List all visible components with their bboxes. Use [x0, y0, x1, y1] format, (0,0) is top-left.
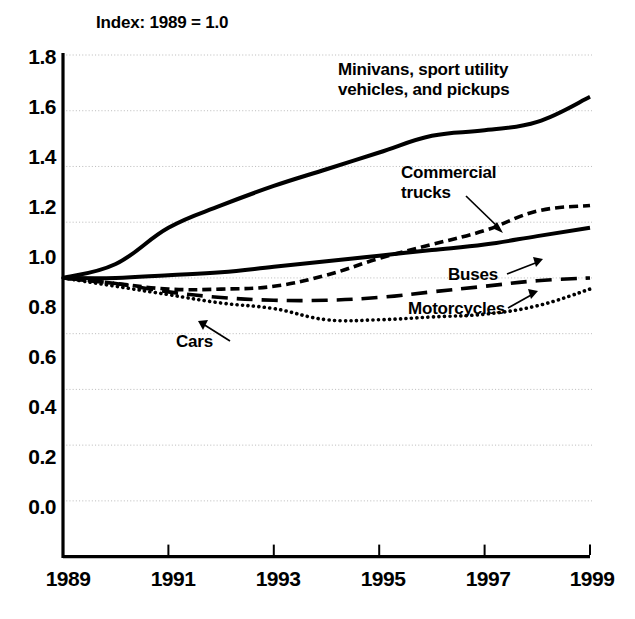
arrowhead-cars — [198, 320, 208, 330]
arrowhead-buses — [533, 257, 543, 267]
annotation-minivans: Minivans, sport utility vehicles, and pi… — [338, 60, 548, 100]
annotation-minivans-line1: Minivans, sport utility — [338, 60, 508, 79]
annotation-motorcycles-label: Motorcycles — [408, 299, 505, 318]
annotation-motorcycles: Motorcycles — [408, 299, 505, 319]
annotation-cars-label: Cars — [176, 332, 213, 351]
leader-motorcycles — [508, 294, 533, 308]
annotation-buses: Buses — [448, 265, 498, 285]
annotation-commercial-trucks-line1: Commercial — [401, 163, 496, 182]
annotation-commercial-trucks: Commercial trucks — [401, 163, 531, 203]
series-line-motorcycles — [63, 278, 590, 301]
chart-figure: Index: 1989 = 1.0 1.8 1.6 1.4 1.2 1.0 0.… — [0, 0, 635, 619]
bottom-edge-artifact — [0, 601, 635, 615]
annotation-buses-label: Buses — [448, 265, 498, 284]
annotation-commercial-trucks-line2: trucks — [401, 183, 451, 202]
arrowhead-motorcycles — [528, 289, 538, 299]
annotation-minivans-line2: vehicles, and pickups — [338, 80, 510, 99]
series-lines — [63, 97, 590, 321]
x-tick-marks — [63, 545, 590, 555]
annotation-cars: Cars — [176, 332, 213, 352]
series-line-buses — [63, 228, 590, 278]
leader-buses — [507, 262, 538, 274]
